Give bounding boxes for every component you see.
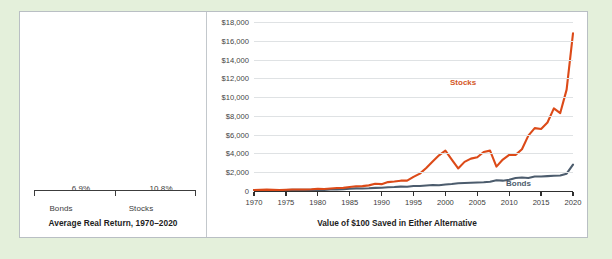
x-axis-tick-label: 2000 (437, 198, 454, 207)
bar-chart-caption: Average Real Return, 1970–2020 (20, 218, 206, 228)
line-chart: 0$2,000$4,000$6,000$8,000$10,000$12,000$… (207, 12, 587, 237)
gridline (254, 22, 573, 23)
x-axis-tick-label: 1980 (309, 198, 326, 207)
gridline (254, 41, 573, 42)
x-axis-tick-label: 2005 (469, 198, 486, 207)
line-x-axis (254, 191, 573, 196)
gridline (254, 153, 573, 154)
gridline (254, 172, 573, 173)
y-axis-tick-label: 0 (245, 187, 249, 196)
y-axis-tick-label: $4,000 (226, 149, 249, 158)
figure-panel: 6.9% 10.8% Bonds Stocks Average Real Ret… (19, 11, 588, 238)
x-axis-tick-label: 1990 (373, 198, 390, 207)
x-axis-tick (477, 192, 478, 196)
x-axis-tick (381, 192, 382, 196)
y-axis-tick-label: $6,000 (226, 130, 249, 139)
x-axis-tick (317, 192, 318, 196)
y-axis-tick-label: $2,000 (226, 168, 249, 177)
x-axis-tick (445, 192, 446, 196)
x-axis-tick-label: 1975 (277, 198, 294, 207)
y-axis-tick-label: $12,000 (222, 74, 249, 83)
gridline (254, 78, 573, 79)
line-plot-area: 0$2,000$4,000$6,000$8,000$10,000$12,000$… (254, 22, 573, 191)
series-label-stocks: Stocks (450, 78, 476, 87)
y-axis-tick-label: $18,000 (222, 18, 249, 27)
y-axis-tick-label: $10,000 (222, 93, 249, 102)
x-axis-tick-label: 1985 (341, 198, 358, 207)
x-axis-tick-label: 1995 (405, 198, 422, 207)
x-axis-tick-label: 2010 (501, 198, 518, 207)
bar-chart: 6.9% 10.8% Bonds Stocks Average Real Ret… (20, 12, 206, 237)
x-axis-tick (413, 192, 414, 196)
y-axis-tick-label: $14,000 (222, 55, 249, 64)
bar-tick-label-stocks: Stocks (106, 204, 176, 213)
gridline (254, 116, 573, 117)
bar-axis-cap-mid (115, 191, 116, 196)
bar-x-axis (34, 190, 196, 196)
figure-root: 6.9% 10.8% Bonds Stocks Average Real Ret… (0, 0, 612, 259)
x-axis-tick-label: 1970 (246, 198, 263, 207)
stocks-line (254, 33, 573, 190)
x-axis-tick (253, 192, 254, 196)
y-axis-tick-label: $8,000 (226, 111, 249, 120)
bar-tick-label-bonds: Bonds (26, 204, 96, 213)
x-axis-tick-label: 2020 (565, 198, 582, 207)
gridline (254, 97, 573, 98)
gridline (254, 135, 573, 136)
x-axis-tick-label: 2015 (533, 198, 550, 207)
series-label-bonds: Bonds (506, 179, 531, 188)
bar-plot-area: 6.9% 10.8% (34, 20, 196, 195)
bar-axis-cap-right (195, 191, 196, 196)
gridline (254, 60, 573, 61)
bar-axis-cap-left (34, 191, 35, 196)
line-series-svg (254, 22, 573, 191)
x-axis-tick (540, 192, 541, 196)
y-axis-tick-label: $16,000 (222, 36, 249, 45)
line-chart-caption: Value of $100 Saved in Either Alternativ… (207, 218, 587, 228)
x-axis-tick (349, 192, 350, 196)
x-axis-tick (572, 192, 573, 196)
x-axis-tick (285, 192, 286, 196)
x-axis-tick (509, 192, 510, 196)
